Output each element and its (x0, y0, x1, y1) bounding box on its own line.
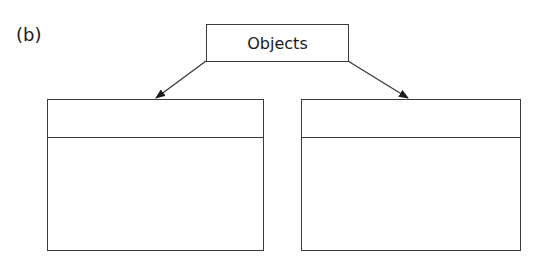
objects-label: Objects (247, 34, 307, 53)
objects-box: Objects (206, 24, 349, 62)
arrow-right (348, 61, 408, 98)
arrow-left (156, 61, 206, 98)
right-class-box (301, 99, 521, 251)
left-box-divider (48, 137, 263, 138)
left-class-box (47, 99, 264, 251)
right-box-divider (302, 137, 520, 138)
